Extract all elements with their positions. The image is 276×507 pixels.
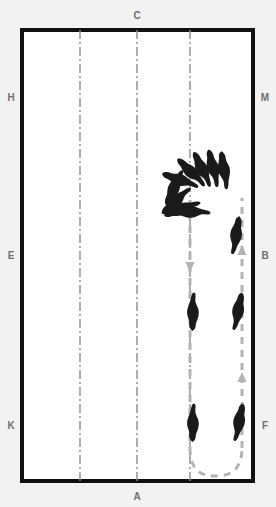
arena-letter-h: H [7,92,14,103]
arena-letter-m: M [261,92,269,103]
arena-letter-c: C [133,10,140,21]
arena-letter-b: B [261,250,268,261]
arena-letter-a: A [133,491,140,502]
arena-letter-e: E [8,250,15,261]
arena-letter-f: F [262,420,268,431]
arena-canvas: C A H E K M B F [0,0,276,507]
arena-diagram: C A H E K M B F [0,0,276,507]
arena-letter-k: K [7,420,15,431]
